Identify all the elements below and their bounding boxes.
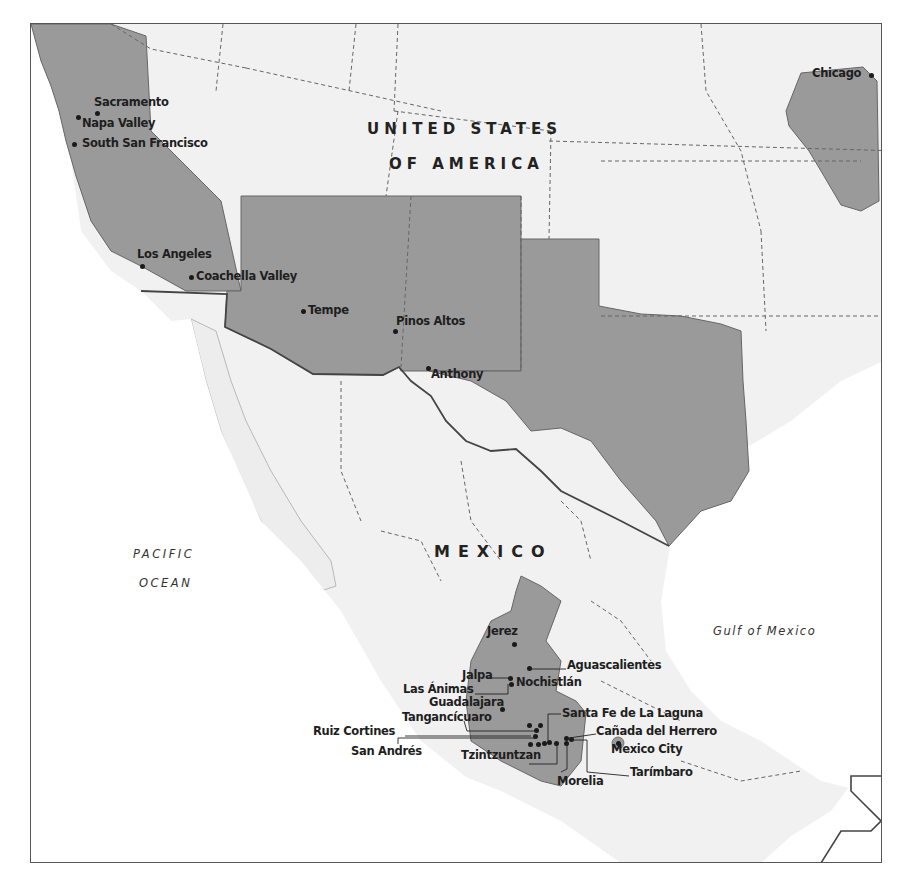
place-label-anthony: Anthony	[431, 367, 483, 381]
place-label-napa-valley: Napa Valley	[82, 116, 155, 130]
place-label-jerez: Jerez	[487, 624, 518, 638]
country-label-usa-line1: UNITED STATES	[367, 120, 562, 138]
water-label-pacific-2: OCEAN	[139, 576, 192, 590]
place-dot-coachella-valley	[189, 275, 194, 280]
place-label-tempe: Tempe	[308, 303, 349, 317]
place-dot-cluster	[534, 728, 539, 733]
place-dot-cluster	[547, 740, 552, 745]
place-label-aguascalientes: Aguascalientes	[567, 658, 661, 672]
place-dot-cluster	[533, 734, 538, 739]
country-label-usa-line2: OF AMERICA	[389, 155, 544, 173]
place-label-jalpa: Jalpa	[462, 668, 492, 682]
place-dot-tempe	[301, 309, 306, 314]
place-dot-pinos-altos	[393, 329, 398, 334]
place-dot-cluster	[528, 742, 533, 747]
place-dot-jerez	[512, 642, 517, 647]
place-dot-napa-valley	[76, 115, 81, 120]
place-label-guadalajara: Guadalajara	[429, 695, 504, 709]
place-label-south-san-francisco: South San Francisco	[82, 136, 208, 150]
place-label-pinos-altos: Pinos Altos	[396, 314, 465, 328]
place-dot-cluster	[536, 742, 541, 747]
place-label-santa-fe-de-la-laguna: Santa Fe de La Laguna	[562, 706, 703, 720]
place-label-chicago: Chicago	[812, 66, 861, 80]
place-dot-south-san-francisco	[72, 142, 77, 147]
place-label-ruiz-cortines: Ruiz Cortines	[313, 724, 395, 738]
place-label-san-andres: San Andrés	[351, 744, 422, 758]
place-label-sacramento: Sacramento	[94, 95, 169, 109]
place-label-nochistlan: Nochistlán	[516, 675, 582, 689]
place-label-tarimbaro: Tarímbaro	[630, 765, 693, 779]
place-label-tzintzuntzan: Tzintzuntzan	[461, 748, 541, 762]
place-dot-nochistlan	[509, 682, 514, 687]
place-dot-cluster	[554, 741, 559, 746]
place-label-coachella-valley: Coachella Valley	[196, 269, 297, 283]
water-label-pacific-1: PACIFIC	[133, 547, 194, 561]
place-label-mexico-city: Mexico City	[611, 742, 682, 756]
water-label-gulf: Gulf of Mexico	[713, 624, 816, 638]
place-label-las-animas: Las Ánimas	[403, 682, 474, 696]
place-dot-cluster	[538, 723, 543, 728]
place-dot-aguascalientes	[527, 666, 532, 671]
place-dot-cluster	[527, 723, 532, 728]
place-label-canada-del-herrero: Cañada del Herrero	[596, 724, 717, 738]
place-dot-cluster	[564, 741, 569, 746]
country-label-mexico: MEXICO	[434, 542, 552, 561]
place-label-tangancicuaro: Tangancícuaro	[402, 710, 492, 724]
place-label-los-angeles: Los Angeles	[137, 247, 211, 261]
place-dot-los-angeles	[140, 264, 145, 269]
map-frame: UNITED STATES OF AMERICA MEXICO PACIFIC …	[30, 23, 882, 863]
place-label-morelia: Morelia	[557, 774, 603, 788]
place-dot-cluster	[569, 737, 574, 742]
place-dot-jalpa	[508, 676, 513, 681]
place-dot-chicago	[869, 73, 874, 78]
